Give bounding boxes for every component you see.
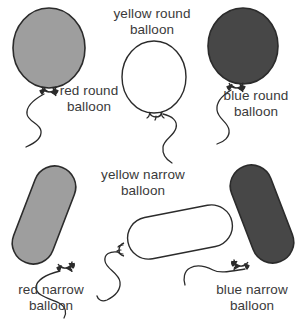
label-blue-narrow-balloon: blue narrow balloon: [200, 282, 304, 314]
label-yellow-narrow-balloon: yellow narrow balloon: [84, 167, 202, 199]
balloon-red-round: [13, 8, 85, 147]
balloon-body-red-narrow: [6, 160, 82, 270]
balloon-string-yellow-round: [163, 114, 177, 163]
balloon-knot-blue-narrow: [232, 260, 249, 270]
balloon-body-blue-round: [208, 8, 278, 84]
balloon-string-red-round: [26, 94, 44, 147]
balloon-artwork: [0, 0, 307, 325]
label-blue-round-balloon: blue round balloon: [208, 88, 304, 120]
balloon-body-yellow-narrow: [124, 201, 236, 262]
balloon-knot-detail-yellow-round: [147, 113, 164, 120]
balloon-body-red-round: [13, 8, 85, 88]
label-yellow-round-balloon: yellow round balloon: [96, 6, 208, 38]
balloon-blue-round: [208, 8, 278, 144]
balloon-body-blue-narrow: [224, 159, 300, 269]
label-red-narrow-balloon: red narrow balloon: [1, 282, 101, 314]
label-red-round-balloon: red round balloon: [43, 83, 135, 115]
balloon-illustration: red round balloon yellow round balloon b…: [0, 0, 307, 325]
